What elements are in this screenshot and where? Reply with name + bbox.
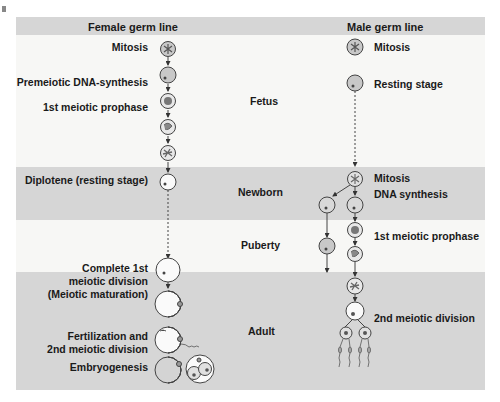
germ-line-diagram [0, 0, 500, 402]
male-cells [319, 39, 371, 367]
female-cells [155, 42, 214, 384]
